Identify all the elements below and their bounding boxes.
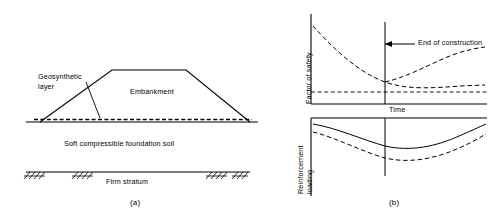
hatch-group-right: [232, 172, 248, 179]
factor-of-safety-axis-label: Factor of safety: [305, 52, 313, 104]
hatch-group-left: [24, 172, 45, 179]
geosynthetic-leader-line: [86, 82, 100, 118]
panel-a-caption: (a): [130, 198, 140, 207]
embankment-label: Embankment: [130, 88, 174, 96]
geosynthetic-layer-label: layer: [38, 83, 54, 91]
reinforcement-loading-axis-label-line2: loading: [306, 170, 314, 194]
panel-a-embankment-diagram: Geosynthetic layer Embankment Soft compr…: [0, 0, 265, 215]
end-of-construction-label: End of construction: [418, 39, 482, 47]
curve-loading-dashed: [313, 132, 486, 160]
curve-loading-solid: [313, 124, 486, 148]
geosynthetic-label: Geosynthetic: [38, 73, 82, 81]
figure-root: Geosynthetic layer Embankment Soft compr…: [0, 0, 501, 215]
end-of-construction-arrow-head: [385, 41, 392, 47]
firm-stratum-label: Firm stratum: [106, 178, 148, 186]
hatch-group-mid-right: [206, 172, 227, 179]
time-axis-label: Time: [389, 106, 405, 114]
panel-b-caption: (b): [389, 198, 399, 207]
curve-reinforced-dashed: [385, 47, 485, 82]
hatch-group-mid-left: [72, 172, 93, 179]
curve-unreinforced-dashed: [313, 26, 485, 88]
foundation-soil-label: Soft compressible foundation soil: [64, 140, 174, 148]
panel-b-charts: End of construction Time Factor of safet…: [265, 0, 501, 215]
